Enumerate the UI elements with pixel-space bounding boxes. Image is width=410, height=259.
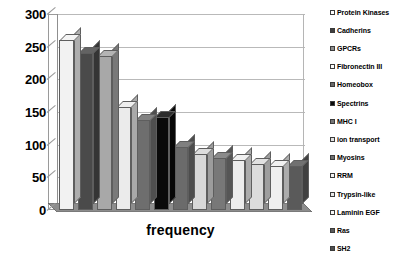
legend-item-label: Cadherins: [337, 27, 371, 34]
legend-item-label: Protein Kinases: [337, 9, 389, 16]
legend-item[interactable]: Protein Kinases: [330, 7, 389, 17]
legend-item-label: RRM: [337, 172, 353, 179]
bar-side-face: [112, 43, 119, 204]
legend-item-label: Trypsin-like: [337, 191, 375, 198]
bar[interactable]: [59, 40, 74, 210]
bar-chart: 050100150200250300 frequency Protein Kin…: [0, 0, 410, 259]
hollow-square-icon: [330, 137, 335, 142]
filled-square-icon: [330, 82, 335, 87]
y-axis-tick-label: 250: [25, 40, 46, 53]
legend-item[interactable]: Trypsin-like: [330, 189, 375, 199]
bar-front-face: [59, 40, 74, 210]
hollow-square-icon: [330, 10, 335, 15]
legend-item[interactable]: Laminin EGF: [330, 207, 380, 217]
bar-series: [57, 14, 304, 210]
legend-item-label: ion transport: [337, 136, 380, 143]
legend-item[interactable]: Myosins: [330, 153, 365, 163]
hollow-square-icon: [330, 173, 335, 178]
x-axis-title: frequency: [57, 222, 304, 238]
legend-item[interactable]: Cadherins: [330, 25, 371, 35]
legend-item[interactable]: Ras: [330, 225, 350, 235]
legend-item[interactable]: Spectrins: [330, 98, 368, 108]
legend-item-label: SH2: [337, 245, 350, 252]
bar-side-face: [150, 107, 157, 204]
bar-side-face: [93, 40, 100, 204]
y-axis-tick-label: 200: [25, 73, 46, 86]
hollow-square-icon: [330, 192, 335, 197]
legend-item-label: Homeobox: [337, 81, 373, 88]
filled-square-icon: [330, 119, 335, 124]
legend-item-label: Fibronectin III: [337, 63, 382, 70]
legend-item-label: Ras: [337, 227, 350, 234]
y-axis-tick-label: 50: [32, 171, 46, 184]
legend-item-label: Laminin EGF: [337, 209, 380, 216]
legend-item[interactable]: Homeobox: [330, 80, 373, 90]
y-axis-tick-label: 150: [25, 106, 46, 119]
filled-square-icon: [330, 101, 335, 106]
chart-legend: Protein KinasesCadherinsGPCRsFibronectin…: [330, 7, 410, 259]
legend-item-label: Myosins: [337, 154, 365, 161]
filled-square-icon: [330, 155, 335, 160]
plot-wrapper: 050100150200250300 frequency: [0, 0, 320, 259]
y-axis-tick-label: 100: [25, 138, 46, 151]
bar-side-face: [169, 104, 176, 204]
hollow-square-icon: [330, 210, 335, 215]
bar-side-face: [74, 27, 81, 204]
legend-item[interactable]: MHC I: [330, 116, 357, 126]
legend-item[interactable]: Fibronectin III: [330, 62, 382, 72]
legend-item[interactable]: ion transport: [330, 134, 380, 144]
y-axis-tick-label: 0: [39, 204, 46, 217]
y-axis-tick-labels: 050100150200250300: [10, 14, 46, 210]
filled-square-icon: [330, 228, 335, 233]
legend-item-label: GPCRs: [337, 45, 361, 52]
filled-square-icon: [330, 246, 335, 251]
bar-side-face: [131, 94, 138, 204]
filled-square-icon: [330, 28, 335, 33]
filled-square-icon: [330, 46, 335, 51]
legend-item-label: Spectrins: [337, 100, 368, 107]
y-axis-tick-label: 300: [25, 8, 46, 21]
legend-item[interactable]: GPCRs: [330, 43, 361, 53]
legend-item-label: MHC I: [337, 118, 357, 125]
legend-item[interactable]: SH2: [330, 244, 350, 254]
hollow-square-icon: [330, 64, 335, 69]
legend-item[interactable]: RRM: [330, 171, 353, 181]
